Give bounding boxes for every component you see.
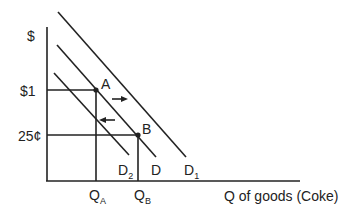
point-b-marker (135, 132, 140, 137)
arrow-left-icon (99, 117, 115, 123)
curve-d-label: D (151, 162, 161, 178)
quantity-label-qa: QA (89, 187, 106, 206)
price-label-high: $1 (20, 83, 36, 99)
price-label-low: 25¢ (18, 128, 41, 144)
demand-shift-diagram: $ $1 25¢ A B D2 D D1 QA QB Q of goods (C… (0, 0, 358, 214)
demand-curve-d (57, 45, 156, 157)
arrow-right-icon (112, 96, 128, 102)
x-axis-label: Q of goods (Coke) (224, 188, 338, 204)
point-b-label: B (142, 121, 151, 137)
curve-d1-label: D1 (184, 162, 199, 181)
point-a-label: A (101, 76, 111, 92)
curve-d2-label: D2 (118, 162, 133, 181)
y-axis-label: $ (27, 28, 35, 44)
quantity-label-qb: QB (134, 187, 151, 206)
point-a-marker (93, 87, 98, 92)
